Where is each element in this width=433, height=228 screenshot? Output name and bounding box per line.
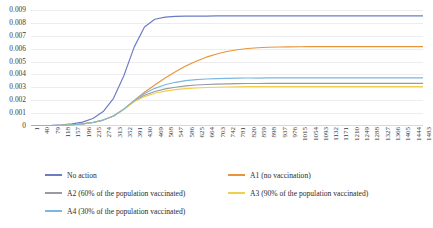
x-axis-tick-label: 508 bbox=[168, 127, 175, 138]
x-axis-tick-label: 79 bbox=[55, 127, 62, 134]
legend-color-swatch bbox=[45, 174, 62, 176]
chart-legend: No actionA1 (no vaccination)A2 (60% of t… bbox=[0, 166, 430, 226]
series-line bbox=[31, 16, 423, 126]
x-axis-tick-label: 586 bbox=[189, 127, 196, 138]
x-axis-tick-label: 1483 bbox=[426, 127, 433, 141]
x-axis-tick-label: 703 bbox=[220, 127, 227, 138]
x-axis-tick-label: 40 bbox=[44, 127, 51, 134]
legend-item[interactable]: No action bbox=[45, 166, 97, 184]
legend-item[interactable]: A2 (60% of the population vaccinated) bbox=[45, 184, 185, 202]
y-axis-tick-label: 0.004 bbox=[9, 71, 26, 78]
x-axis-tick-label: 781 bbox=[240, 127, 247, 138]
x-axis-tick-label: 196 bbox=[86, 127, 93, 138]
legend-row: A4 (30% of the population vaccinated) bbox=[0, 202, 430, 220]
x-axis-tick-label: 1132 bbox=[333, 127, 340, 141]
x-axis-tick-label: 1327 bbox=[385, 127, 392, 141]
chart-title-cropped bbox=[0, 0, 430, 7]
legend-color-swatch bbox=[228, 174, 245, 176]
x-axis-tick-label: 1171 bbox=[343, 127, 350, 141]
x-axis-tick-label: 1405 bbox=[405, 127, 412, 141]
x-axis-tick-label: 313 bbox=[117, 127, 124, 138]
x-axis-tick-label: 1249 bbox=[364, 127, 371, 141]
y-axis-tick-label: 0.005 bbox=[9, 58, 26, 65]
x-axis-tick-label: 1054 bbox=[313, 127, 320, 141]
x-axis: 1407911815719623527431335239143046950854… bbox=[31, 127, 423, 161]
x-axis-tick-label: 274 bbox=[106, 127, 113, 138]
x-axis-tick-label: 430 bbox=[147, 127, 154, 138]
x-axis-tick-label: 352 bbox=[127, 127, 134, 138]
y-axis-tick-label: 0.007 bbox=[9, 32, 26, 39]
x-axis-tick-label: 664 bbox=[209, 127, 216, 138]
y-axis-tick-label: 0 bbox=[22, 122, 26, 129]
legend-row: A2 (60% of the population vaccinated)A3 … bbox=[0, 184, 430, 202]
x-axis-tick-label: 1288 bbox=[374, 127, 381, 141]
y-axis-tick-label: 0.002 bbox=[9, 97, 26, 104]
legend-label: A4 (30% of the population vaccinated) bbox=[67, 207, 185, 216]
y-axis-tick-label: 0.001 bbox=[9, 109, 26, 116]
x-axis-tick-label: 1444 bbox=[416, 127, 423, 141]
x-axis-tick-label: 391 bbox=[137, 127, 144, 138]
x-axis-tick-label: 820 bbox=[251, 127, 258, 138]
legend-label: A3 (90% of the population vaccinated) bbox=[250, 189, 368, 198]
series-line bbox=[31, 78, 423, 126]
y-axis: 00.0010.0020.0030.0040.0050.0060.0070.00… bbox=[0, 10, 29, 126]
x-axis-tick-label: 976 bbox=[292, 127, 299, 138]
legend-label: A2 (60% of the population vaccinated) bbox=[67, 189, 185, 198]
y-axis-tick-label: 0.008 bbox=[9, 19, 26, 26]
x-axis-tick-label: 157 bbox=[75, 127, 82, 138]
legend-color-swatch bbox=[45, 192, 62, 194]
x-axis-tick-label: 742 bbox=[230, 127, 237, 138]
legend-label: A1 (no vaccination) bbox=[250, 171, 311, 180]
plot-area bbox=[31, 10, 423, 126]
legend-row: No actionA1 (no vaccination) bbox=[0, 166, 430, 184]
legend-color-swatch bbox=[45, 210, 62, 212]
legend-label: No action bbox=[67, 171, 97, 180]
x-axis-tick-label: 469 bbox=[158, 127, 165, 138]
y-axis-tick-label: 0.003 bbox=[9, 84, 26, 91]
x-axis-tick-label: 859 bbox=[261, 127, 268, 138]
x-axis-tick-label: 898 bbox=[271, 127, 278, 138]
legend-item[interactable]: A3 (90% of the population vaccinated) bbox=[228, 184, 368, 202]
x-axis-tick-label: 235 bbox=[96, 127, 103, 138]
series-lines bbox=[31, 10, 423, 126]
legend-color-swatch bbox=[228, 192, 245, 194]
x-axis-tick-label: 1366 bbox=[395, 127, 402, 141]
y-axis-tick-label: 0.009 bbox=[9, 6, 26, 13]
legend-item[interactable]: A4 (30% of the population vaccinated) bbox=[45, 202, 185, 220]
x-axis-tick-label: 1210 bbox=[354, 127, 361, 141]
x-axis-tick-label: 1093 bbox=[323, 127, 330, 141]
legend-item[interactable]: A1 (no vaccination) bbox=[228, 166, 311, 184]
x-axis-tick-label: 1 bbox=[34, 127, 41, 131]
x-axis-tick-label: 1015 bbox=[302, 127, 309, 141]
x-axis-tick-label: 547 bbox=[178, 127, 185, 138]
x-axis-tick-label: 937 bbox=[282, 127, 289, 138]
x-axis-tick-label: 118 bbox=[65, 127, 72, 137]
x-axis-tick-label: 625 bbox=[199, 127, 206, 138]
y-axis-tick-label: 0.006 bbox=[9, 45, 26, 52]
